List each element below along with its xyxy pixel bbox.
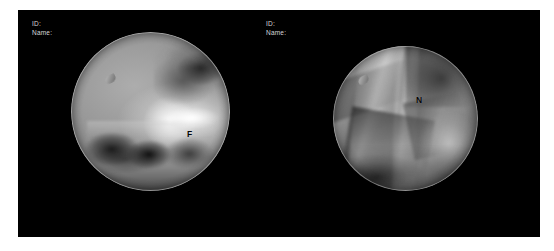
right-scope-rim xyxy=(333,46,478,191)
right-overlay-id: ID: xyxy=(266,20,275,29)
left-overlay-id: ID: xyxy=(32,20,41,29)
left-anatomy-label-femur: F xyxy=(187,130,192,139)
left-scope-rim xyxy=(71,32,230,191)
right-overlay-name: Name: xyxy=(266,29,286,38)
left-arthroscopic-view xyxy=(71,32,230,191)
right-anatomy-label-nerve: N xyxy=(416,96,422,105)
left-overlay-name: Name: xyxy=(32,29,52,38)
right-arthroscopic-view xyxy=(333,46,478,191)
dual-endoscopic-image-panel: ID: Name: F ID: Name: xyxy=(18,10,540,237)
image-page: ID: Name: F ID: Name: xyxy=(0,0,554,251)
